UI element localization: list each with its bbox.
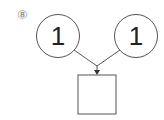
left-node-value: 1 <box>51 21 65 51</box>
left-node: 1 <box>37 15 80 58</box>
answer-box[interactable] <box>78 75 116 114</box>
number-bond-diagram: ⑧ 1 1 <box>0 0 164 120</box>
arrow-head-icon <box>94 70 100 75</box>
right-node-value: 1 <box>129 21 143 51</box>
right-node: 1 <box>115 15 158 58</box>
connector-right <box>97 50 120 66</box>
connector-left <box>74 50 97 66</box>
problem-number-label: ⑧ <box>17 8 28 22</box>
result-box[interactable] <box>78 75 116 114</box>
